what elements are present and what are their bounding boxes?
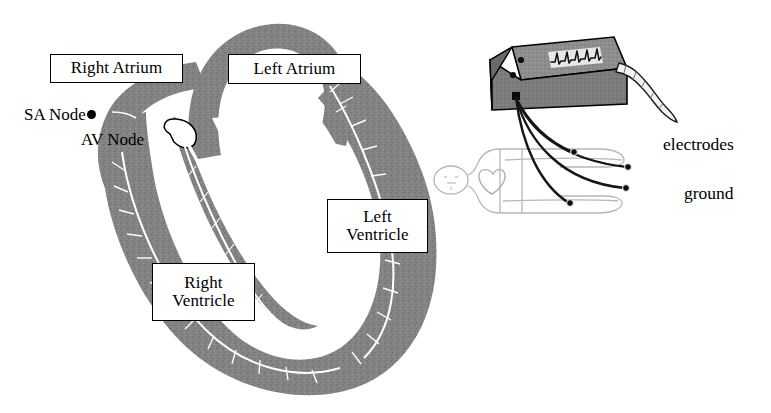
sa-node-dot-icon <box>87 110 96 119</box>
label-right-atrium-line-1: Right Atrium <box>71 59 162 77</box>
label-sa-node-text: SA Node <box>24 105 86 124</box>
patient-arm-lower <box>503 200 618 201</box>
heart-shape <box>479 170 505 194</box>
label-left-atrium: Left Atrium <box>228 54 361 84</box>
electrode-tip-2 <box>625 164 632 171</box>
patient-figure <box>434 149 624 213</box>
label-electrodes: electrodes <box>663 136 734 154</box>
label-left-ventricle-line-2: Ventricle <box>346 226 408 244</box>
label-av-node-text: AV Node <box>81 130 144 149</box>
label-right-ventricle-line-1: Right <box>184 274 222 292</box>
label-right-ventricle-line-2: Ventricle <box>172 292 234 310</box>
figure-root: Right Atrium Left Atrium Left Ventricle … <box>0 0 771 413</box>
label-left-atrium-line-1: Left Atrium <box>254 60 336 78</box>
label-ground: ground <box>684 185 734 203</box>
ecg-knob-2[interactable] <box>510 72 516 78</box>
label-left-ventricle-line-1: Left <box>363 208 392 226</box>
electrode-tips <box>567 149 632 207</box>
label-right-ventricle: Right Ventricle <box>152 263 255 321</box>
ecg-knob-1[interactable] <box>518 57 524 63</box>
electrode-tip-3 <box>623 185 630 192</box>
electrode-tip-1 <box>571 149 578 156</box>
patient-face-marks <box>444 177 458 190</box>
patient-torso-rails <box>500 149 522 213</box>
lead-wire-3 <box>516 98 625 188</box>
electrode-tip-4 <box>567 200 574 207</box>
label-sa-node: SA Node <box>24 106 96 123</box>
label-av-node: AV Node <box>81 131 144 148</box>
label-left-ventricle: Left Ventricle <box>327 199 428 253</box>
label-right-atrium: Right Atrium <box>50 54 183 83</box>
